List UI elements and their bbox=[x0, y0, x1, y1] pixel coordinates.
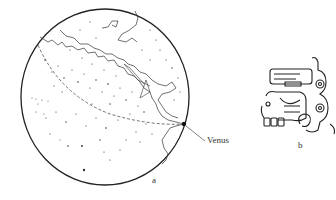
panel-b-label: b bbox=[298, 141, 303, 150]
island-outline bbox=[102, 21, 118, 28]
stars bbox=[32, 21, 181, 171]
venus-marker bbox=[182, 122, 186, 126]
sky-map-panel-a bbox=[21, 9, 205, 185]
ecliptic-path bbox=[38, 45, 184, 124]
venus-pointer-line bbox=[186, 126, 205, 141]
sky-circle bbox=[21, 9, 189, 185]
panel-a-label: a bbox=[152, 176, 156, 185]
coastline bbox=[40, 37, 184, 124]
figure bbox=[0, 0, 336, 200]
maya-glyph-panel-b bbox=[261, 58, 334, 135]
coastline-inner bbox=[60, 30, 178, 118]
venus-label: Venus bbox=[207, 136, 229, 145]
coastline-north bbox=[118, 11, 138, 42]
